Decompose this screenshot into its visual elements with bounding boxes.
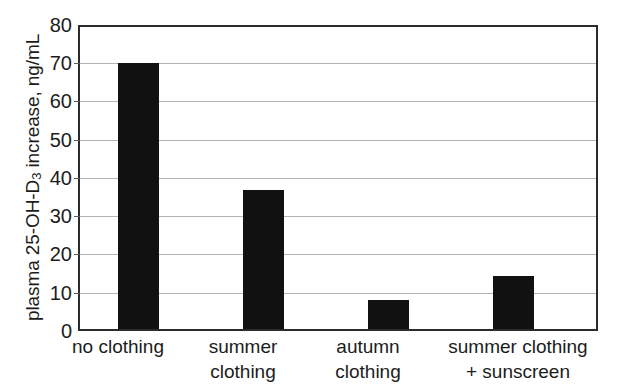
bar-no-clothing [118, 63, 159, 329]
y-tick-label-70: 70 [28, 53, 72, 73]
x-tick-label-summer-clothing: summer clothing [183, 334, 303, 384]
tick-mark-60 [74, 101, 80, 102]
y-tick-label-80: 80 [28, 15, 72, 35]
x-tick-label-summer-clothing-line1: summer [209, 336, 278, 357]
y-tick-label-40: 40 [28, 168, 72, 188]
tick-mark-70 [74, 63, 80, 64]
plot-area [78, 25, 598, 331]
y-tick-label-60: 60 [28, 91, 72, 111]
tick-mark-50 [74, 140, 80, 141]
y-tick-label-30: 30 [28, 206, 72, 226]
y-tick-label-20: 20 [28, 244, 72, 264]
bar-chart: plasma 25-OH-D3 increase, ng/mL 80 70 60… [0, 0, 618, 388]
x-tick-label-no-clothing-line1: no clothing [72, 336, 164, 357]
x-tick-label-no-clothing: no clothing [58, 334, 178, 359]
tick-mark-40 [74, 178, 80, 179]
x-tick-label-summer-clothing-sunscreen-line1: summer clothing [448, 336, 587, 357]
x-axis-tick-labels: no clothing summer clothing autumn cloth… [0, 334, 618, 388]
bar-summer-clothing-sunscreen [493, 276, 534, 329]
x-tick-label-summer-clothing-line2: clothing [183, 359, 303, 384]
x-tick-label-autumn-clothing-line1: autumn [336, 336, 399, 357]
x-tick-label-autumn-clothing-line2: clothing [308, 359, 428, 384]
tick-mark-30 [74, 216, 80, 217]
bar-summer-clothing [243, 190, 284, 329]
x-tick-label-summer-clothing-sunscreen-line2: + sunscreen [428, 359, 608, 384]
y-tick-label-10: 10 [28, 283, 72, 303]
tick-mark-20 [74, 254, 80, 255]
y-axis-tick-labels: 80 70 60 50 40 30 20 10 0 [26, 0, 72, 388]
tick-mark-10 [74, 293, 80, 294]
x-tick-label-summer-clothing-sunscreen: summer clothing + sunscreen [428, 334, 608, 384]
bar-autumn-clothing [368, 300, 409, 329]
x-tick-label-autumn-clothing: autumn clothing [308, 334, 428, 384]
y-tick-label-50: 50 [28, 130, 72, 150]
